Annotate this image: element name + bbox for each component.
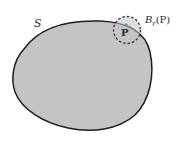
ball-label: Br(P) [145,15,170,28]
point-label-p: P [121,28,129,38]
region-label-s: S [34,18,42,29]
diagram-canvas: S Br(P) P [0,0,176,142]
ball-argument: (P) [156,14,171,25]
